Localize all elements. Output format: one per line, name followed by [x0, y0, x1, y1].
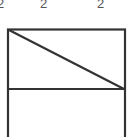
diagonal-line [9, 30, 124, 89]
diagram-canvas [0, 0, 132, 137]
outer-rectangle [8, 30, 125, 138]
